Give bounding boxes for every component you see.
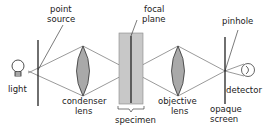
condenser-lens xyxy=(77,46,90,96)
objective-lens xyxy=(172,46,185,96)
detector-label: detector xyxy=(226,85,262,95)
point-source-label-2: source xyxy=(47,14,75,24)
condenser-label-1: condenser xyxy=(62,96,107,106)
light-bulb-icon xyxy=(12,60,24,76)
specimen-label: specimen xyxy=(115,115,156,125)
focal-plane-label-2: plane xyxy=(142,14,166,24)
objective-label-1: objective xyxy=(158,96,197,106)
focal-plane-label-1: focal xyxy=(144,4,164,14)
specimen-brace xyxy=(118,106,144,112)
pinhole-label: pinhole xyxy=(222,16,253,26)
detector-icon xyxy=(242,64,255,77)
light-label: light xyxy=(8,84,28,94)
condenser-label-2: lens xyxy=(75,106,93,116)
opaque-screen-label-1: opaque xyxy=(210,104,242,114)
point-source-label-1: point xyxy=(50,4,72,14)
pinhole-leader xyxy=(225,30,238,71)
point-source-leader xyxy=(38,25,63,70)
confocal-diagram: light point source condenser lens focal … xyxy=(0,0,270,129)
opaque-screen-label-2: screen xyxy=(210,114,238,124)
objective-label-2: lens xyxy=(171,106,189,116)
